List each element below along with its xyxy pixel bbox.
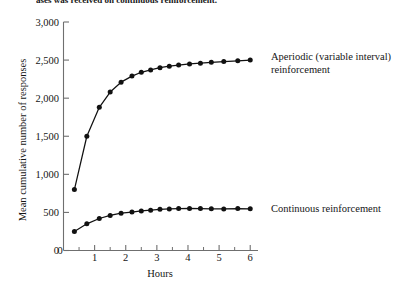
data-point [139, 70, 144, 75]
x-tick-label: 6 [248, 252, 253, 263]
data-point [198, 206, 203, 211]
series-label-aperiodic-line2: reinforcement [271, 64, 330, 75]
data-point [97, 216, 102, 221]
data-point [84, 134, 89, 139]
data-point [139, 208, 144, 213]
data-point [198, 61, 203, 66]
data-point [108, 90, 113, 95]
x-tick-label: 2 [123, 252, 128, 263]
data-point [235, 206, 240, 211]
y-tick-label: 500 [43, 207, 59, 218]
x-tick-label: 3 [154, 252, 159, 263]
x-tick-label: 4 [185, 252, 191, 263]
x-axis-ticks: 0123456 [57, 245, 252, 263]
data-point [148, 67, 153, 72]
x-axis-title: Hours [147, 268, 173, 279]
data-point [157, 65, 162, 70]
data-point [84, 221, 89, 226]
data-point [129, 210, 134, 215]
data-point [176, 206, 181, 211]
x-tick-label: 0 [57, 245, 62, 256]
data-point [248, 58, 253, 63]
data-point [97, 105, 102, 110]
data-point [187, 61, 192, 66]
data-point [221, 59, 226, 64]
data-point [187, 206, 192, 211]
caption-text: ases was received on continuous reinforc… [36, 0, 366, 6]
data-point [209, 60, 214, 65]
series-layer [72, 58, 253, 234]
y-tick-label: 1,500 [35, 131, 59, 142]
data-point [209, 206, 214, 211]
data-point [108, 213, 113, 218]
y-tick-label: 3,000 [35, 17, 59, 28]
data-point [235, 58, 240, 63]
series-label-aperiodic-line1: Aperiodic (variable interval) [271, 51, 392, 63]
data-point [148, 208, 153, 213]
x-tick-label: 1 [92, 252, 97, 263]
data-point [72, 187, 77, 192]
y-tick-label: 1,000 [35, 169, 59, 180]
x-tick-label: 5 [216, 252, 221, 263]
data-point [176, 63, 181, 68]
data-point [221, 206, 226, 211]
data-point [167, 64, 172, 69]
y-tick-label: 2,500 [35, 55, 59, 66]
series-line-0 [74, 60, 250, 189]
y-axis-title: Mean cumulative number of responses [17, 59, 28, 222]
data-point [248, 206, 253, 211]
line-chart: Mean cumulative number of responses 0500… [0, 0, 413, 286]
data-point [119, 211, 124, 216]
data-point [119, 80, 124, 85]
data-point [129, 74, 134, 79]
y-tick-label: 2,000 [35, 93, 59, 104]
data-point [167, 206, 172, 211]
data-point [72, 229, 77, 234]
data-point [157, 207, 162, 212]
figure-container: ases was received on continuous reinforc… [0, 0, 413, 286]
series-label-continuous: Continuous reinforcement [271, 203, 381, 214]
